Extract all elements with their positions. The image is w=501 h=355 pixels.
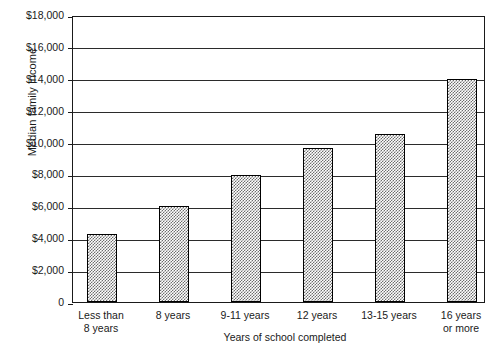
bar: [375, 134, 405, 302]
y-axis-tick: [68, 112, 73, 113]
x-axis-tick-label: 16 yearsor more: [418, 309, 501, 335]
y-axis-tick: [68, 80, 73, 81]
y-axis-tick: [68, 176, 73, 177]
bar: [303, 148, 333, 302]
gridline: [73, 80, 484, 81]
y-axis-tick: [68, 17, 73, 18]
bar: [231, 175, 261, 302]
y-axis-tick: [68, 144, 73, 145]
gridline: [73, 112, 484, 113]
y-axis-tick: [68, 48, 73, 49]
y-axis-tick-label: $4,000: [0, 232, 64, 244]
x-axis-tick-label-line: 8 years: [58, 322, 144, 335]
gridline: [73, 176, 484, 177]
gridline: [73, 272, 484, 273]
bar: [87, 234, 117, 302]
gridline: [73, 208, 484, 209]
y-axis-tick-label: $6,000: [0, 200, 64, 212]
y-axis-tick: [68, 208, 73, 209]
y-axis-tick: [68, 304, 73, 305]
plot-area: [72, 16, 485, 303]
bar: [447, 79, 477, 302]
y-axis-tick-label: 0: [0, 296, 64, 308]
y-axis-tick-label: $2,000: [0, 264, 64, 276]
y-axis-title: Median family income: [26, 12, 38, 192]
y-axis-tick: [68, 240, 73, 241]
gridline: [73, 48, 484, 49]
y-axis-tick-label: $14,000: [0, 73, 64, 85]
gridline: [73, 240, 484, 241]
x-axis-tick-label-line: 16 years: [418, 309, 501, 322]
y-axis-tick-label: $8,000: [0, 168, 64, 180]
y-axis-tick-label: $18,000: [0, 9, 64, 21]
x-axis-tick-label-line: or more: [418, 322, 501, 335]
gridline: [73, 144, 484, 145]
y-axis-tick-label: $12,000: [0, 105, 64, 117]
bar-chart: Median family income Years of school com…: [0, 0, 501, 355]
bar: [159, 206, 189, 302]
y-axis-tick-label: $16,000: [0, 41, 64, 53]
y-axis-tick-label: $10,000: [0, 137, 64, 149]
y-axis-tick: [68, 272, 73, 273]
